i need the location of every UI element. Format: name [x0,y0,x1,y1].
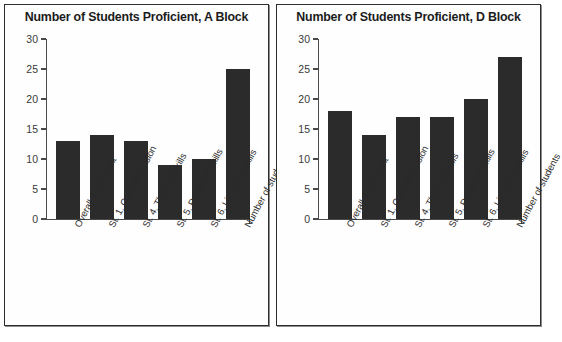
y-tick-mark [41,218,46,219]
y-tick-mark [41,98,46,99]
bars-layer [47,39,251,219]
y-tick-mark [41,128,46,129]
y-tick-label: 20 [280,94,310,105]
y-tick-label: 30 [8,34,38,45]
y-tick-mark [41,38,46,39]
x-labels-layer: Overall # proficientSt. 1. Comprehension… [319,224,523,324]
bar [328,111,352,219]
bars-layer [319,39,523,219]
y-tick-label: 5 [8,184,38,195]
y-tick-label: 25 [8,64,38,75]
y-tick-mark [313,68,318,69]
y-tick-label: 0 [8,214,38,225]
plot-area: 051015202530Overall # proficientSt. 1. C… [5,5,270,327]
y-tick-label: 15 [280,124,310,135]
y-tick-label: 30 [280,34,310,45]
y-tick-mark [41,188,46,189]
y-tick-label: 5 [280,184,310,195]
y-tick-mark [313,38,318,39]
y-tick-mark [313,128,318,129]
y-tick-mark [313,188,318,189]
y-tick-label: 20 [8,94,38,105]
chart-panel-1: Number of Students Proficient, A Block05… [4,4,269,326]
y-tick-mark [313,158,318,159]
x-labels-layer: Overall # proficientSt. 1. Comprehension… [47,224,251,324]
y-tick-mark [313,218,318,219]
chart-panel-2: Number of Students Proficient, D Block05… [276,4,541,326]
y-tick-label: 25 [280,64,310,75]
y-tick-mark [41,158,46,159]
y-tick-label: 15 [8,124,38,135]
y-tick-label: 0 [280,214,310,225]
y-tick-label: 10 [280,154,310,165]
y-tick-mark [313,98,318,99]
bar [56,141,80,219]
y-tick-label: 10 [8,154,38,165]
plot-area: 051015202530Overall # proficientSt. 1. C… [277,5,542,327]
y-tick-mark [41,68,46,69]
